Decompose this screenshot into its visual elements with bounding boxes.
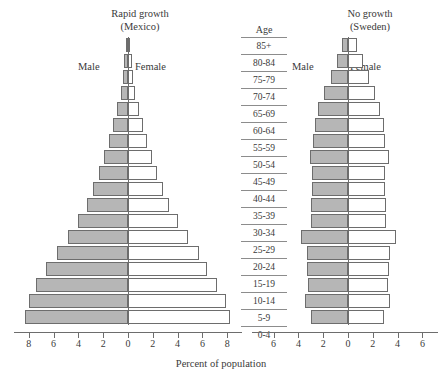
- pyramid-row: [286, 213, 434, 229]
- bar-female-35-39: [348, 198, 386, 212]
- x-tick-label: 4: [390, 338, 406, 349]
- x-tick-label: 0: [120, 338, 136, 349]
- chart-title-sweden-line1: No growth: [347, 8, 392, 19]
- bar-male-15-19: [46, 262, 128, 276]
- bar-male-45-49: [312, 166, 348, 180]
- bar-male-0-4: [311, 310, 348, 324]
- bar-male-0-4: [25, 310, 128, 324]
- pyramid-row: [286, 309, 434, 325]
- x-tick-label: 6: [194, 338, 210, 349]
- bar-female-10-14: [348, 278, 388, 292]
- pyramid-row: [286, 69, 434, 85]
- age-cell: 45-49: [241, 174, 287, 191]
- x-axis-sweden: [252, 332, 438, 333]
- bar-female-35-39: [128, 198, 169, 212]
- pyramid-row: [286, 117, 434, 133]
- pyramid-row: [286, 293, 434, 309]
- bar-female-5-9: [348, 294, 390, 308]
- bar-male-35-39: [87, 198, 128, 212]
- bar-male-50-54: [310, 150, 348, 164]
- panel-mexico: [18, 37, 238, 325]
- bar-male-50-54: [104, 150, 128, 164]
- pyramid-row: [286, 197, 434, 213]
- bar-female-70-74: [128, 86, 135, 100]
- bar-female-30-34: [348, 214, 386, 228]
- age-cell: 5-9: [241, 310, 287, 327]
- x-tick-label: 6: [46, 338, 62, 349]
- bar-female-65-69: [128, 102, 139, 116]
- bar-female-65-69: [348, 102, 380, 116]
- bar-male-45-49: [99, 166, 128, 180]
- age-group-column: Age 85+80-8475-7970-7465-6960-6455-5950-…: [241, 22, 287, 343]
- x-tick-label: 0: [340, 338, 356, 349]
- bar-female-85+: [348, 38, 357, 52]
- x-tick-label: 6: [266, 338, 282, 349]
- bar-female-45-49: [348, 166, 385, 180]
- bar-male-75-79: [331, 70, 348, 84]
- bar-female-45-49: [128, 166, 157, 180]
- bar-male-20-24: [307, 246, 348, 260]
- bar-female-40-44: [348, 182, 385, 196]
- bar-male-65-69: [117, 102, 128, 116]
- bar-female-50-54: [348, 150, 389, 164]
- x-tick-label: 4: [290, 338, 306, 349]
- pyramid-row: [286, 245, 434, 261]
- pyramid-row: [286, 37, 434, 53]
- age-cell: 50-54: [241, 157, 287, 174]
- chart-title-mexico: Rapid growth (Mexico): [62, 8, 218, 33]
- bar-male-80-84: [337, 54, 348, 68]
- bar-male-65-69: [318, 102, 348, 116]
- bar-male-30-34: [78, 214, 128, 228]
- bar-female-25-29: [348, 230, 396, 244]
- age-cell: 10-14: [241, 293, 287, 310]
- pyramid-row: [286, 181, 434, 197]
- bar-male-60-64: [113, 118, 128, 132]
- bar-male-70-74: [121, 86, 128, 100]
- bar-female-40-44: [128, 182, 163, 196]
- chart-title-mexico-line1: Rapid growth: [111, 8, 168, 19]
- bar-female-0-4: [348, 310, 384, 324]
- bar-female-15-19: [128, 262, 207, 276]
- age-cell: 60-64: [241, 123, 287, 140]
- chart-title-mexico-line2: (Mexico): [62, 21, 218, 34]
- bar-male-25-29: [301, 230, 348, 244]
- bar-male-40-44: [312, 182, 348, 196]
- pyramid-row: [286, 133, 434, 149]
- age-cell: 70-74: [241, 89, 287, 106]
- bar-female-5-9: [128, 294, 226, 308]
- bar-male-35-39: [311, 198, 348, 212]
- bar-male-70-74: [324, 86, 348, 100]
- age-cell: 55-59: [241, 140, 287, 157]
- pyramid-row: [286, 149, 434, 165]
- bar-male-30-34: [311, 214, 348, 228]
- bar-female-75-79: [348, 70, 369, 84]
- bar-female-70-74: [348, 86, 375, 100]
- age-cell: 25-29: [241, 242, 287, 259]
- bar-male-10-14: [308, 278, 348, 292]
- age-cell: 65-69: [241, 106, 287, 123]
- bar-male-15-19: [307, 262, 348, 276]
- bar-male-40-44: [93, 182, 128, 196]
- x-tick-label: 2: [315, 338, 331, 349]
- x-tick-label: 2: [365, 338, 381, 349]
- age-cell: 75-79: [241, 72, 287, 89]
- zero-axis-line-sweden: [348, 37, 349, 325]
- bar-female-80-84: [348, 54, 363, 68]
- pyramid-row: [286, 277, 434, 293]
- chart-title-sweden-line2: (Sweden): [300, 21, 440, 34]
- x-tick-label: 6: [414, 338, 430, 349]
- x-axis-label: Percent of population: [0, 358, 442, 369]
- age-cell: 80-84: [241, 55, 287, 72]
- population-pyramid-figure: Rapid growth (Mexico) No growth (Sweden)…: [0, 0, 442, 379]
- x-tick-label: 4: [170, 338, 186, 349]
- bar-male-55-59: [109, 134, 128, 148]
- bar-male-25-29: [68, 230, 128, 244]
- bar-female-25-29: [128, 230, 188, 244]
- bar-female-60-64: [128, 118, 143, 132]
- pyramid-row: [286, 261, 434, 277]
- panel-sweden: [286, 37, 434, 325]
- pyramid-row: [286, 101, 434, 117]
- pyramid-row: [286, 85, 434, 101]
- pyramid-row: [286, 165, 434, 181]
- bar-male-10-14: [36, 278, 128, 292]
